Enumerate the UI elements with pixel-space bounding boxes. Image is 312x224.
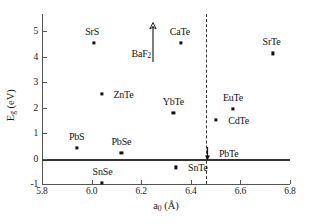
y-tick: [43, 159, 47, 160]
data-point-marker: [179, 42, 182, 45]
x-axis-title: a0 (Å): [153, 200, 179, 213]
data-point-label: PbTe: [219, 148, 239, 159]
y-tick-label: 4: [33, 52, 38, 62]
x-tick-label: 6.2: [136, 186, 147, 196]
x-tick: [240, 180, 241, 184]
x-tick: [141, 180, 142, 184]
y-tick: [43, 108, 47, 109]
x-axis-line: [42, 184, 290, 185]
y-tick: [43, 133, 47, 134]
scatter-chart: 5.86.06.26.46.66.8 -1012345 SrSBaF2CaTeS…: [0, 0, 312, 224]
data-point-label: SnSe: [93, 165, 113, 176]
data-point-label: ZnTe: [113, 88, 133, 99]
data-point-label: SnTe: [188, 162, 208, 173]
pbte-down-arrow-icon: [204, 146, 211, 159]
data-point-label: CdTe: [228, 115, 249, 126]
y-tick: [43, 31, 47, 32]
y-tick-label: 3: [33, 77, 38, 87]
y-tick: [43, 184, 47, 185]
y-tick: [43, 57, 47, 58]
y-tick: [43, 82, 47, 83]
data-point-marker: [172, 112, 175, 115]
zero-reference-line: [42, 159, 290, 161]
x-tick-label: 6.8: [284, 186, 295, 196]
data-point-label: YbTe: [163, 96, 184, 107]
data-point-label: PbS: [69, 131, 85, 142]
y-tick-label: 0: [33, 154, 38, 164]
x-tick: [191, 180, 192, 184]
y-tick-label: 1: [33, 128, 38, 138]
data-point-marker: [214, 119, 217, 122]
x-tick-label: 6.6: [235, 186, 246, 196]
data-point-marker: [120, 151, 123, 154]
y-tick-label: 2: [33, 103, 38, 113]
data-point-marker: [100, 92, 103, 95]
data-point-marker: [75, 147, 78, 150]
data-point-label: PbSe: [112, 135, 132, 146]
y-axis-title: Eg (eV): [5, 70, 18, 140]
data-point-label: EuTe: [223, 91, 243, 102]
data-point-label: SrTe: [263, 36, 281, 47]
x-tick: [290, 180, 291, 184]
data-point-marker: [271, 52, 274, 55]
data-point-marker: [231, 107, 234, 110]
data-point-marker: [93, 41, 96, 44]
data-point-label: CaTe: [170, 26, 190, 37]
data-point-marker: [100, 181, 103, 184]
x-tick-label: 6.0: [86, 186, 97, 196]
x-tick: [92, 180, 93, 184]
data-point-marker: [174, 166, 177, 169]
y-tick-label: 5: [33, 26, 38, 36]
x-tick-label: 6.4: [185, 186, 196, 196]
baf2-up-arrow-icon: [148, 22, 158, 62]
data-point-label: SrS: [85, 25, 99, 36]
y-tick-label: -1: [30, 179, 38, 189]
